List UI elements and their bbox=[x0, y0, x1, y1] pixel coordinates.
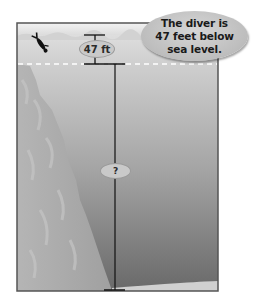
callout-bubble: The diver is 47 feet below sea level. bbox=[141, 11, 248, 61]
unknown-depth-label: ? bbox=[100, 163, 131, 179]
callout-text: The diver is 47 feet below sea level. bbox=[155, 17, 233, 56]
diver-depth-label: 47 ft bbox=[79, 40, 115, 58]
diagram-scene: 47 ft ? The diver is 47 feet below sea l… bbox=[0, 0, 254, 303]
